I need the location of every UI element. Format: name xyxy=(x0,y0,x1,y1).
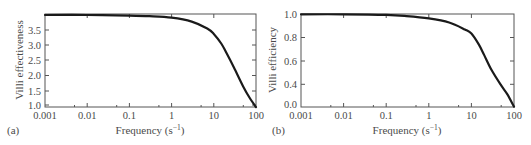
svg-text:1.5: 1.5 xyxy=(28,86,41,97)
svg-text:1: 1 xyxy=(426,110,431,121)
panel-a: 3.5 3.0 2.5 2.0 1.5 1.0 0.001 0.01 0.1 1… xyxy=(7,14,264,137)
svg-text:0.8: 0.8 xyxy=(284,32,297,43)
svg-text:1: 1 xyxy=(169,110,174,121)
x-axis-title-a: Frequency (s−1) xyxy=(116,123,185,138)
svg-text:0.01: 0.01 xyxy=(78,110,96,121)
svg-text:1.0: 1.0 xyxy=(28,100,41,111)
y-tick-labels-b: 1.0 0.8 0.6 0.4 0.0 xyxy=(284,9,298,110)
svg-text:0.1: 0.1 xyxy=(123,110,136,121)
x-tick-labels-b: 0.001 0.01 0.1 1 10 100 xyxy=(289,110,522,121)
svg-text:100: 100 xyxy=(248,110,264,121)
figure: 3.5 3.0 2.5 2.0 1.5 1.0 0.001 0.01 0.1 1… xyxy=(0,0,531,145)
svg-text:3.5: 3.5 xyxy=(28,25,41,36)
svg-text:2.5: 2.5 xyxy=(28,55,41,66)
panel-b: 1.0 0.8 0.6 0.4 0.0 0.001 0.01 0.1 1 10 … xyxy=(266,9,522,137)
svg-text:0.01: 0.01 xyxy=(334,110,352,121)
y-ticks-a xyxy=(45,30,256,105)
svg-text:2.0: 2.0 xyxy=(28,70,41,81)
y-tick-labels-a: 3.5 3.0 2.5 2.0 1.5 1.0 xyxy=(28,25,41,111)
x-ticks-a xyxy=(75,14,244,107)
panel-label-a: (a) xyxy=(7,124,20,137)
svg-text:10: 10 xyxy=(209,110,220,121)
plot-frame-a xyxy=(45,14,256,107)
x-tick-labels-a: 0.001 0.01 0.1 1 10 100 xyxy=(33,110,264,121)
x-ticks-b xyxy=(331,14,501,107)
svg-text:10: 10 xyxy=(466,110,477,121)
panel-label-b: (b) xyxy=(272,124,285,137)
plot-frame-b xyxy=(301,14,514,107)
curve-villi-effectiveness xyxy=(45,15,256,107)
y-axis-title-b: Villi efficiency xyxy=(266,26,278,93)
svg-text:0.4: 0.4 xyxy=(284,79,298,90)
svg-text:0.1: 0.1 xyxy=(380,110,393,121)
svg-text:0.001: 0.001 xyxy=(289,110,313,121)
svg-text:0.6: 0.6 xyxy=(284,56,297,67)
y-ticks-b xyxy=(301,38,514,85)
svg-text:3.0: 3.0 xyxy=(28,40,41,51)
svg-text:1.0: 1.0 xyxy=(284,9,297,20)
y-axis-title-a: Villi effectiveness xyxy=(13,20,25,99)
svg-text:100: 100 xyxy=(506,110,522,121)
svg-text:0.001: 0.001 xyxy=(33,110,57,121)
svg-text:0.0: 0.0 xyxy=(284,99,297,110)
x-axis-title-b: Frequency (s−1) xyxy=(373,123,442,138)
curve-villi-efficiency xyxy=(301,14,514,106)
